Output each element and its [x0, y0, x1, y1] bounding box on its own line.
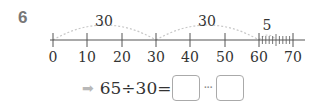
jump-label-1: 30	[95, 13, 113, 29]
tick-label-40: 40	[181, 49, 199, 65]
equation-expression: 65÷30=	[100, 78, 172, 98]
jump-label-2: 30	[198, 13, 216, 29]
division-equation: ➡ 65÷30= ···	[82, 74, 244, 102]
jump-label-3: 5	[263, 17, 272, 33]
number-line: 30 30 5 0 10 20 30 40 50 60 70	[0, 0, 318, 70]
tick-label-70: 70	[284, 49, 302, 65]
quotient-answer-box[interactable]	[172, 75, 200, 101]
tick-label-50: 50	[216, 49, 234, 65]
tick-label-30: 30	[147, 49, 165, 65]
tick-label-20: 20	[113, 49, 131, 65]
jump-arc-3	[259, 35, 276, 40]
tick-label-10: 10	[78, 49, 96, 65]
remainder-answer-box[interactable]	[216, 75, 244, 101]
tick-label-0: 0	[49, 49, 58, 65]
remainder-separator: ···	[204, 81, 212, 95]
arrow-right-icon: ➡	[82, 80, 94, 96]
tick-label-60: 60	[250, 49, 268, 65]
